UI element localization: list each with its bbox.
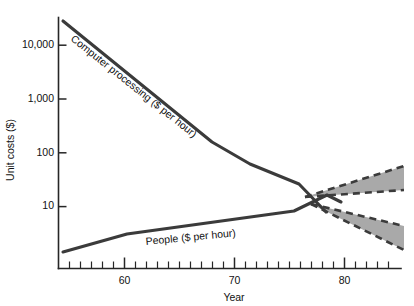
chart-figure: 10,000 1,000 100 10 Unit costs ($) bbox=[0, 0, 414, 306]
y-tick-label-1000: 1,000 bbox=[28, 92, 54, 104]
series-line-computer-processing bbox=[63, 21, 326, 212]
y-tick-marks bbox=[59, 45, 67, 206]
x-minor-tick-marks bbox=[70, 262, 389, 269]
series-label-computer-processing: Computer processing ($ per hour) bbox=[69, 32, 200, 139]
y-tick-labels: 10,000 1,000 100 10 bbox=[22, 38, 54, 211]
y-tick-label-10: 10 bbox=[42, 199, 54, 211]
x-tick-label-70: 70 bbox=[229, 274, 241, 286]
x-tick-label-80: 80 bbox=[339, 274, 351, 286]
chart-canvas: 10,000 1,000 100 10 Unit costs ($) bbox=[0, 0, 414, 306]
upper-projection-cone bbox=[305, 166, 404, 197]
x-tick-labels: 60 70 80 bbox=[119, 274, 351, 286]
x-tick-label-60: 60 bbox=[119, 274, 131, 286]
y-axis-title: Unit costs ($) bbox=[4, 119, 16, 181]
y-tick-label-100: 100 bbox=[36, 146, 54, 158]
y-tick-label-10000: 10,000 bbox=[22, 38, 54, 50]
series-line-people bbox=[63, 195, 341, 252]
x-axis-title: Year bbox=[223, 291, 245, 303]
